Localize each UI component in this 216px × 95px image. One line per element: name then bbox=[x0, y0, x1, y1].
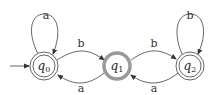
edge-q1-q2 bbox=[131, 51, 176, 60]
edge-label-q2-q2: b bbox=[186, 9, 193, 22]
edge-label-q0-q1: b bbox=[77, 37, 84, 50]
edge-label-q0-q0: a bbox=[43, 9, 50, 22]
edge-label-q1-q2: b bbox=[150, 37, 157, 50]
edge-q0-q1 bbox=[57, 51, 104, 60]
edge-label-q1-q0: a bbox=[78, 82, 85, 95]
state-q2: q2 bbox=[176, 52, 204, 80]
state-q1: q1 bbox=[104, 53, 130, 79]
edge-label-q2-q1: a bbox=[151, 82, 158, 95]
state-q0: q0 bbox=[30, 52, 58, 80]
state-diagram: a b a b a b q0 q1 q2 bbox=[0, 0, 216, 95]
